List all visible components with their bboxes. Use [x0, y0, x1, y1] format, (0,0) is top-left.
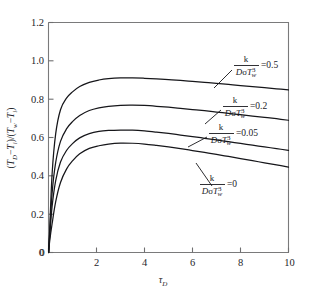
y-tick-label-1: 0.2: [31, 209, 44, 220]
annotation-2: k DσT3w =0.05: [209, 122, 258, 147]
ylabel-close2: ): [6, 108, 17, 111]
annotation-0-value: =0.5: [261, 60, 278, 70]
leader-line-2: [188, 137, 207, 147]
chart-figure: 0 0.2 0.4 0.6 0.8 1.0 1.2 0 2 4 6 8 10: [0, 0, 309, 296]
annotation-3-numerator: k: [210, 173, 215, 183]
svg-text:(TD−Ti)/(Tw−Ti): (TD−Ti)/(Tw−Ti): [6, 108, 19, 169]
series-line-2: [49, 130, 289, 252]
y-axis-title: (TD−Ti)/(Tw−Ti): [6, 108, 19, 169]
x-tick-label-5: 10: [284, 257, 295, 268]
annotation-leaders: [188, 70, 232, 186]
ylabel-close1: )/(: [6, 133, 17, 142]
annotation-3-value: =0: [227, 179, 237, 189]
y-tick-label-6: 1.2: [31, 17, 44, 28]
svg-text:DσT3w: DσT3w: [201, 185, 223, 199]
x-axis-title: τD: [159, 274, 168, 288]
svg-text:DσT3w: DσT3w: [224, 107, 246, 121]
annotation-3-den-sub: w: [218, 190, 223, 198]
x-tick-labels: 0 2 4 6 8 10: [39, 247, 294, 268]
y-tick-label-3: 0.6: [31, 132, 44, 143]
y-tick-label-5: 1.0: [31, 55, 44, 66]
y-tick-labels: 0 0.2 0.4 0.6 0.8 1.0 1.2: [31, 17, 45, 258]
annotation-2-den-sub: w: [227, 139, 232, 147]
annotation-0: k DσT3w =0.5: [234, 54, 278, 79]
x-tick-label-0: 0: [39, 247, 44, 258]
annotation-1-numerator: k: [233, 95, 238, 105]
annotation-2-numerator: k: [219, 122, 224, 132]
x-tick-label-2: 4: [142, 257, 148, 268]
series-line-3: [49, 143, 289, 252]
x-axis-title-sub: D: [161, 280, 167, 288]
x-tick-label-3: 6: [190, 257, 195, 268]
annotation-1-den-sub: w: [241, 112, 246, 120]
x-axis-ticks: [49, 248, 289, 253]
annotation-1-value: =0.2: [250, 101, 267, 111]
svg-text:τD: τD: [159, 274, 168, 288]
leader-line-0: [214, 70, 232, 88]
x-tick-label-4: 8: [238, 257, 243, 268]
annotation-0-den-sub: w: [252, 71, 257, 79]
annotation-2-value: =0.05: [236, 128, 258, 138]
x-tick-label-1: 2: [94, 257, 99, 268]
y-tick-label-4: 0.8: [31, 94, 44, 105]
svg-text:DσT3w: DσT3w: [210, 134, 232, 148]
annotation-0-numerator: k: [244, 54, 249, 64]
line-chart: 0 0.2 0.4 0.6 0.8 1.0 1.2 0 2 4 6 8 10: [0, 0, 309, 296]
y-tick-label-2: 0.4: [31, 170, 45, 181]
svg-text:DσT3w: DσT3w: [235, 66, 257, 80]
